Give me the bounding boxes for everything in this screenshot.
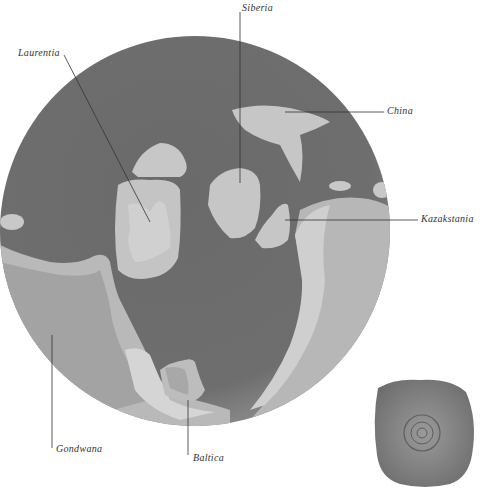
globe-map: [0, 0, 480, 494]
label-kazakstania: Kazakstania: [421, 213, 474, 224]
east-island-1: [329, 181, 351, 191]
west-island: [0, 214, 24, 230]
east-island-2: [373, 182, 391, 198]
label-siberia: Siberia: [242, 2, 273, 13]
label-baltica: Baltica: [193, 452, 224, 463]
fossil-specimen: [375, 380, 474, 487]
map-figure: Laurentia Siberia China Kazakstania Gond…: [0, 0, 480, 494]
label-gondwana: Gondwana: [56, 443, 102, 454]
label-laurentia: Laurentia: [18, 47, 60, 58]
label-china: China: [387, 105, 413, 116]
